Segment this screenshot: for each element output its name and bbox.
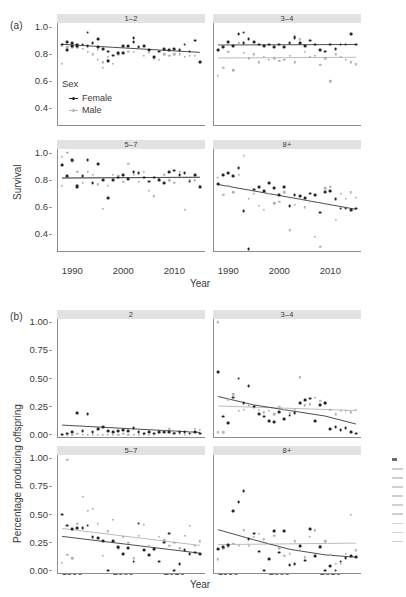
data-point-female	[298, 402, 301, 405]
data-point-female	[268, 181, 271, 184]
data-point-female	[232, 45, 235, 48]
data-point-female	[178, 431, 181, 434]
y-tick-label: 0.00	[18, 429, 48, 440]
data-point-female	[178, 173, 181, 176]
data-point-female	[309, 528, 312, 531]
data-point-female	[163, 47, 166, 50]
data-point-female	[81, 175, 84, 178]
data-point-female	[66, 175, 69, 178]
data-point-female	[278, 551, 281, 554]
y-tick-label: 1.00	[18, 452, 48, 463]
data-point-female	[334, 569, 337, 572]
data-point-female	[334, 425, 337, 428]
facet-57: 5–7	[57, 140, 205, 252]
panel-b: (b) Percentage producing offspring Year …	[0, 298, 406, 597]
data-point-female	[153, 432, 156, 435]
y-tick-label: 0.75	[18, 480, 48, 491]
facet-strip-label: 5–7	[124, 447, 137, 455]
trend-lines	[57, 319, 205, 438]
data-point-female	[232, 175, 235, 178]
legend-item-female[interactable]: Female	[69, 92, 112, 104]
panel-b-x-axis-title: Year	[120, 579, 280, 590]
data-point-female	[257, 185, 260, 188]
y-tick-label: 0.50	[18, 509, 48, 520]
data-point-female	[293, 412, 296, 415]
data-point-female	[163, 181, 166, 184]
data-point-female	[91, 42, 94, 45]
data-point-female	[168, 49, 171, 52]
data-point-female	[158, 560, 161, 563]
x-tick-label: 1990	[211, 265, 245, 276]
data-point-female	[127, 430, 130, 433]
data-point-female	[193, 39, 196, 42]
data-point-female	[349, 32, 352, 35]
facet-strip: 3–4	[213, 14, 361, 23]
data-point-female	[183, 549, 186, 552]
data-point-female	[122, 51, 125, 54]
data-point-female	[173, 47, 176, 50]
data-point-female	[112, 431, 115, 434]
data-point-female	[117, 430, 120, 433]
data-point-female	[217, 183, 220, 186]
data-point-female	[101, 540, 104, 543]
data-point-female	[247, 38, 250, 41]
data-point-female	[86, 524, 89, 527]
data-point-female	[198, 61, 201, 64]
data-point-female	[339, 429, 342, 432]
data-point-female	[329, 565, 332, 568]
data-point-female	[217, 548, 220, 551]
data-point-female	[188, 552, 191, 555]
legend-label-female: Female	[82, 92, 112, 104]
data-point-female	[127, 45, 130, 48]
data-point-female	[319, 546, 322, 549]
data-point-female	[222, 546, 225, 549]
data-point-female	[242, 42, 245, 45]
data-point-female	[237, 167, 240, 170]
data-point-female	[334, 47, 337, 50]
data-point-female	[122, 429, 125, 432]
plot-area	[213, 149, 361, 252]
data-point-female	[324, 191, 327, 194]
data-point-female	[193, 431, 196, 434]
data-point-female	[91, 431, 94, 434]
y-tick-label: 1.0	[18, 21, 48, 32]
data-point-female	[132, 426, 135, 429]
facet-34: 3–4	[213, 14, 361, 126]
data-point-female	[222, 415, 225, 418]
facet-2: 2	[57, 310, 205, 438]
data-point-female	[101, 425, 104, 428]
panel-a-x-axis-title: Year	[120, 278, 280, 289]
data-point-female	[153, 176, 156, 179]
data-point-female	[132, 560, 135, 563]
caption-text-sliver	[392, 458, 406, 588]
data-point-female	[198, 552, 201, 555]
data-point-female	[349, 555, 352, 558]
data-point-female	[193, 173, 196, 176]
data-point-female	[173, 169, 176, 172]
data-point-female	[117, 51, 120, 54]
facet-strip-label: 3–4	[280, 311, 293, 319]
data-point-female	[247, 385, 250, 388]
data-point-female	[257, 550, 260, 553]
data-point-female	[107, 50, 110, 53]
data-point-female	[227, 543, 230, 546]
data-point-female	[273, 46, 276, 49]
data-point-female	[112, 540, 115, 543]
data-point-female	[257, 43, 260, 46]
data-point-female	[339, 43, 342, 46]
legend-item-male[interactable]: Male	[69, 104, 112, 116]
plot-area	[213, 23, 361, 126]
x-tick-label: 2000	[106, 265, 140, 276]
trend-lines	[213, 455, 361, 574]
data-point-female	[137, 172, 140, 175]
data-point-female	[344, 557, 347, 560]
data-point-female	[273, 187, 276, 190]
y-tick-label: 1.0	[18, 147, 48, 158]
data-point-female	[107, 430, 110, 433]
data-point-female	[314, 555, 317, 558]
data-point-female	[193, 551, 196, 554]
data-point-female	[319, 211, 322, 214]
data-point-female	[173, 569, 176, 572]
data-point-female	[168, 532, 171, 535]
data-point-female	[303, 398, 306, 401]
